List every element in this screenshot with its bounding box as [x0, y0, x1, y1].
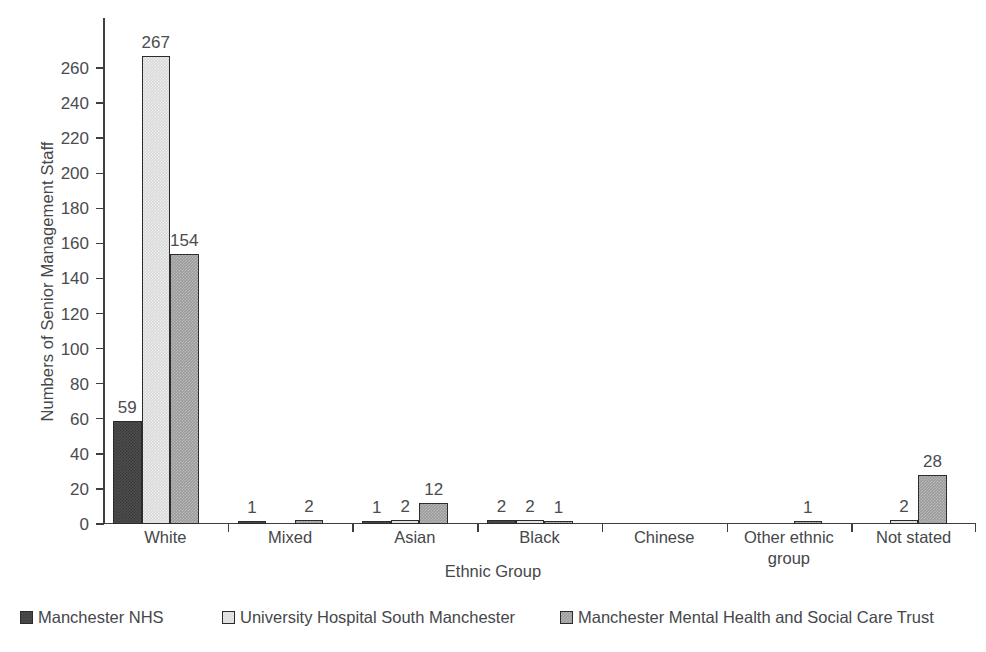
bar — [362, 521, 391, 524]
bar — [544, 521, 573, 524]
bar-value-label: 2 — [377, 498, 434, 515]
light-gray-swatch — [222, 611, 235, 624]
legend-item[interactable]: University Hospital South Manchester — [222, 608, 515, 627]
bar — [170, 254, 199, 524]
y-tick-label: 60 — [29, 410, 89, 427]
bar-value-label: 12 — [405, 481, 462, 498]
bar-value-label: 1 — [530, 499, 587, 516]
y-tick-label: 200 — [29, 165, 89, 182]
bar-chart: Numbers of Senior Management Staff 02040… — [0, 0, 986, 652]
y-tick-label: 100 — [29, 340, 89, 357]
y-tick-mark — [96, 67, 104, 68]
bar-value-label: 2 — [876, 498, 933, 515]
x-category-label: Not stated — [852, 527, 976, 548]
legend-item[interactable]: Manchester Mental Health and Social Care… — [560, 608, 934, 627]
bar-value-label: 2 — [281, 498, 338, 515]
y-tick-mark — [96, 137, 104, 138]
y-tick-mark — [96, 453, 104, 454]
y-tick-label: 20 — [29, 480, 89, 497]
bar-value-label: 59 — [99, 399, 156, 416]
bar — [295, 520, 324, 524]
bar — [142, 56, 171, 524]
y-tick-mark — [96, 488, 104, 489]
y-tick-mark — [96, 348, 104, 349]
y-tick-label: 260 — [29, 60, 89, 77]
y-tick-label: 180 — [29, 200, 89, 217]
y-tick-mark — [96, 278, 104, 279]
bar — [890, 520, 919, 524]
bar-value-label: 1 — [224, 499, 281, 516]
bar — [794, 521, 823, 524]
legend-item[interactable]: Manchester NHS — [20, 608, 164, 627]
y-tick-mark — [96, 383, 104, 384]
y-tick-mark — [96, 173, 104, 174]
legend-label: Manchester Mental Health and Social Care… — [578, 608, 934, 627]
legend: Manchester NHSUniversity Hospital South … — [0, 606, 986, 636]
plot-area: 020406080100120140160180200220240260 592… — [103, 18, 976, 524]
y-tick-mark — [96, 208, 104, 209]
bar-value-label: 1 — [780, 499, 837, 516]
bar-value-label: 28 — [904, 453, 961, 470]
bar-value-label: 154 — [156, 232, 213, 249]
y-tick-label: 0 — [29, 516, 89, 533]
y-tick-mark — [96, 523, 104, 524]
y-tick-label: 80 — [29, 375, 89, 392]
x-category-label: Asian — [353, 527, 477, 548]
x-category-label: White — [103, 527, 227, 548]
y-tick-mark — [96, 243, 104, 244]
y-tick-mark — [96, 102, 104, 103]
y-tick-label: 120 — [29, 305, 89, 322]
bar — [487, 520, 516, 524]
medium-gray-swatch — [560, 611, 573, 624]
x-category-label: Chinese — [602, 527, 726, 548]
x-category-label: Mixed — [228, 527, 352, 548]
y-tick-mark — [96, 313, 104, 314]
bar — [113, 421, 142, 524]
bar — [516, 520, 545, 524]
bar — [391, 520, 420, 524]
x-axis-title: Ethnic Group — [0, 562, 986, 581]
y-axis-line — [103, 18, 105, 524]
y-tick-label: 240 — [29, 95, 89, 112]
y-tick-label: 220 — [29, 130, 89, 147]
y-tick-mark — [96, 418, 104, 419]
y-tick-label: 160 — [29, 235, 89, 252]
legend-label: University Hospital South Manchester — [240, 608, 515, 627]
x-category-label: Black — [478, 527, 602, 548]
y-tick-label: 140 — [29, 270, 89, 287]
dark-gray-swatch — [20, 611, 33, 624]
legend-label: Manchester NHS — [38, 608, 164, 627]
bar — [238, 521, 267, 524]
y-tick-label: 40 — [29, 445, 89, 462]
bar-value-label: 267 — [128, 34, 185, 51]
